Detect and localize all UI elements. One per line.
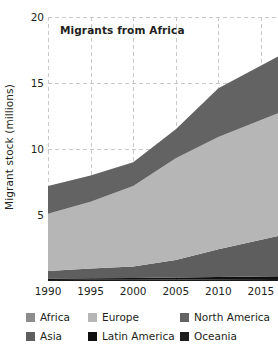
chart-legend: AfricaEuropeNorth AmericaAsiaLatin Ameri…	[0, 306, 278, 345]
y-tick-label: 10	[4, 144, 44, 155]
x-tick-label: 2000	[111, 285, 155, 298]
area-series-group	[48, 57, 278, 281]
legend-item-label: Africa	[40, 312, 70, 323]
legend-item-label: Europe	[102, 312, 139, 323]
y-tick-label: 15	[4, 78, 44, 89]
y-tick-label: 20	[4, 12, 44, 23]
y-tick-label: 5	[4, 210, 44, 221]
legend-swatch-icon	[180, 313, 189, 322]
legend-item-label: Asia	[40, 331, 62, 342]
x-tick-label: 2010	[196, 285, 240, 298]
legend-item-oceania[interactable]: Oceania	[180, 328, 237, 344]
plot-area	[48, 17, 278, 281]
x-tick-label: 1995	[69, 285, 113, 298]
x-axis-tick-labels: 199019952000200520102015	[0, 285, 278, 301]
chart-figure: Migrant stock (millions) 5101520 Migrant…	[0, 0, 278, 345]
x-tick-label: 2005	[154, 285, 198, 298]
legend-swatch-icon	[26, 313, 35, 322]
legend-item-label: North America	[194, 312, 270, 323]
chart-title: Migrants from Africa	[60, 24, 185, 36]
x-tick-label: 2015	[239, 285, 278, 298]
legend-item-label: Oceania	[194, 331, 237, 342]
legend-item-latin-america[interactable]: Latin America	[88, 328, 175, 344]
legend-swatch-icon	[88, 332, 97, 341]
legend-item-asia[interactable]: Asia	[26, 328, 62, 344]
legend-item-europe[interactable]: Europe	[88, 309, 139, 325]
legend-swatch-icon	[88, 313, 97, 322]
legend-item-africa[interactable]: Africa	[26, 309, 70, 325]
legend-swatch-icon	[180, 332, 189, 341]
stacked-area-svg	[48, 17, 278, 281]
legend-item-north-america[interactable]: North America	[180, 309, 270, 325]
legend-item-label: Latin America	[102, 331, 175, 342]
legend-swatch-icon	[26, 332, 35, 341]
x-tick-label: 1990	[26, 285, 70, 298]
